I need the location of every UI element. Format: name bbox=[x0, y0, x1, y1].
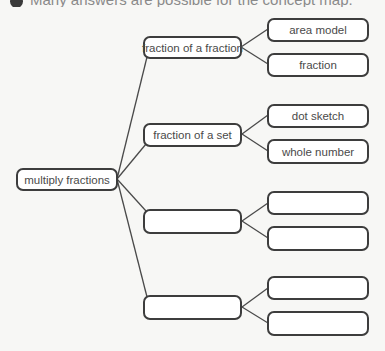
node-label: fraction of a set bbox=[153, 129, 232, 141]
leaf-node-blank-4a[interactable] bbox=[267, 276, 369, 300]
leaf-node-blank-4b[interactable] bbox=[267, 311, 369, 336]
node-label: multiply fractions bbox=[24, 174, 110, 186]
node-label: fraction of a fraction bbox=[142, 42, 243, 54]
branch-node-fraction-of-a-fraction: fraction of a fraction bbox=[143, 36, 242, 59]
branch-node-blank-4[interactable] bbox=[143, 295, 242, 320]
leaf-node-whole-number: whole number bbox=[267, 139, 369, 164]
root-node-multiply-fractions: multiply fractions bbox=[16, 168, 118, 191]
node-label: area model bbox=[289, 24, 347, 36]
leaf-node-blank-3a[interactable] bbox=[267, 191, 369, 215]
branch-node-blank-3[interactable] bbox=[143, 209, 242, 234]
node-label: dot sketch bbox=[292, 110, 344, 122]
node-label: whole number bbox=[282, 146, 354, 158]
leaf-node-dot-sketch: dot sketch bbox=[267, 104, 369, 128]
node-label: fraction bbox=[299, 59, 337, 71]
leaf-node-area-model: area model bbox=[267, 18, 369, 42]
branch-node-fraction-of-a-set: fraction of a set bbox=[143, 123, 242, 147]
leaf-node-blank-3b[interactable] bbox=[267, 226, 369, 251]
leaf-node-fraction: fraction bbox=[267, 53, 369, 77]
